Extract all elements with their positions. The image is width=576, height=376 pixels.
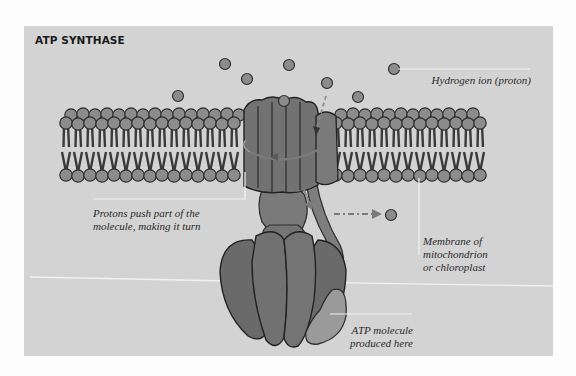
label-proton-text: Hydrogen ion (proton) bbox=[432, 74, 531, 86]
proton-circle-icon bbox=[353, 92, 364, 103]
label-membrane: Membrane of mitochondrion or chloroplast bbox=[423, 235, 548, 274]
lipid-bilayer-left bbox=[60, 108, 245, 182]
fo-rotor-ring bbox=[244, 97, 318, 193]
proton-circle-icon bbox=[322, 78, 333, 89]
proton-circle-icon bbox=[284, 60, 295, 71]
proton-circle-icon bbox=[220, 59, 231, 70]
proton-circle-icon bbox=[242, 74, 253, 85]
proton-circle-icon bbox=[279, 96, 290, 107]
label-atp-line2: produced here bbox=[330, 337, 413, 350]
atp-synthase-illustration bbox=[0, 0, 576, 376]
lipid-bilayer-right bbox=[330, 108, 486, 182]
proton-circle-icon bbox=[173, 91, 184, 102]
proton-circle-icon bbox=[386, 210, 397, 221]
label-membrane-line1: Membrane of mitochondrion bbox=[423, 235, 548, 261]
proton-circle-icon bbox=[389, 64, 400, 75]
label-atp: ATP molecule produced here bbox=[330, 324, 413, 350]
label-proton: Hydrogen ion (proton) bbox=[400, 74, 531, 87]
label-rotor-line1: Protons push part of the bbox=[93, 207, 253, 220]
label-atp-line1: ATP molecule bbox=[330, 324, 413, 337]
stator-subunit bbox=[316, 112, 338, 185]
diagram-title: ATP SYNTHASE bbox=[35, 34, 125, 46]
label-rotor: Protons push part of the molecule, makin… bbox=[93, 207, 253, 233]
label-membrane-line2: or chloroplast bbox=[423, 261, 548, 274]
label-rotor-line2: molecule, making it turn bbox=[93, 220, 253, 233]
